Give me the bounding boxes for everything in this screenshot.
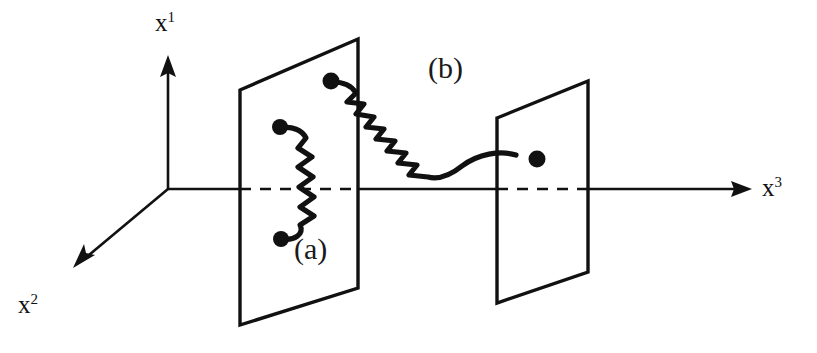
x2-axis-line [83, 189, 168, 260]
axis-label-x3-base: x [762, 174, 775, 201]
interaction-b-vertex-right [529, 151, 546, 168]
axis-label-x1-base: x [155, 9, 168, 36]
axis-label-x3-superscript: 3 [775, 174, 783, 190]
interaction-b-label: (b) [428, 53, 463, 83]
axis-label-x3: x3 [762, 175, 782, 200]
interaction-b-group [323, 73, 546, 178]
interaction-a-group [272, 119, 314, 247]
axis-label-x1-superscript: 1 [168, 9, 176, 25]
figure-canvas: x1 x2 x3 (a) (b) [0, 0, 817, 353]
interaction-a-wavy-line [281, 127, 314, 239]
x3-arrowhead-icon [731, 181, 752, 197]
interaction-a-label: (a) [294, 234, 327, 264]
horizontal-axis-group [168, 181, 752, 197]
x2-arrowhead-icon [73, 244, 95, 268]
axis-label-x2-base: x [18, 291, 31, 318]
depth-axis-group [73, 189, 168, 268]
axis-label-x1: x1 [155, 10, 175, 35]
right-hyperplane-outline [497, 81, 588, 303]
vertical-axis-group [160, 55, 176, 189]
axis-label-x2-superscript: 2 [31, 291, 39, 307]
diagram-svg [0, 0, 817, 353]
interaction-a-vertex-bottom [273, 231, 289, 247]
interaction-a-vertex-top [272, 119, 288, 135]
axis-label-x2: x2 [18, 292, 38, 317]
right-hyperplane-group [497, 81, 588, 303]
interaction-b-vertex-left [323, 73, 340, 90]
